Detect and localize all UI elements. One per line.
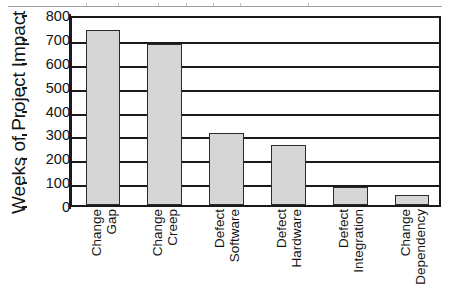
- y-tick-mark: [22, 134, 27, 136]
- x-category-label: DefectIntegration: [331, 209, 366, 299]
- x-category-label: ChangeCreep: [145, 209, 180, 299]
- x-axis-label-group: ChangeGapChangeCreepDefectSoftwareDefect…: [70, 209, 441, 299]
- y-tick-label: 800: [30, 9, 70, 24]
- bar-chart-figure: Weeks of Project Impact 0100200300400500…: [0, 0, 449, 299]
- y-tick-mark: [22, 87, 27, 89]
- y-tick-mark: [22, 206, 27, 208]
- y-tick-mark: [22, 39, 27, 41]
- x-category-label: ChangeGap: [84, 209, 119, 299]
- bar: [395, 195, 430, 205]
- gridline: [72, 137, 439, 139]
- x-category-label-line: Defect: [337, 209, 351, 248]
- bar: [209, 133, 244, 205]
- gridline: [72, 185, 439, 187]
- x-category-label-line: Change: [399, 209, 413, 256]
- y-tick-label: 0: [30, 200, 70, 215]
- y-tick-label: 300: [30, 128, 70, 143]
- x-category-label: DefectHardware: [269, 209, 304, 299]
- y-tick-mark: [22, 63, 27, 65]
- gridline: [72, 114, 439, 116]
- x-category-label-line: Creep: [166, 209, 180, 246]
- gridline: [72, 42, 439, 44]
- gridline: [72, 161, 439, 163]
- bar: [271, 145, 306, 205]
- y-tick-label: 500: [30, 80, 70, 95]
- plot-area: [70, 16, 441, 207]
- bar: [86, 30, 121, 205]
- y-tick-mark: [22, 158, 27, 160]
- x-category-label-line: Defect: [275, 209, 289, 248]
- x-category-label-line: Software: [228, 209, 242, 262]
- x-category-label-line: Change: [90, 209, 104, 256]
- x-category-label-line: Integration: [352, 209, 366, 273]
- bar: [333, 187, 368, 205]
- gridline: [72, 66, 439, 68]
- x-category-label-line: Defect: [213, 209, 227, 248]
- y-tick-label: 400: [30, 104, 70, 119]
- gridline: [72, 90, 439, 92]
- y-tick-label: 100: [30, 176, 70, 191]
- y-tick-mark: [22, 15, 27, 17]
- y-axis-tick-group: 0100200300400500600700800: [22, 16, 70, 207]
- x-category-label-line: Gap: [105, 209, 119, 235]
- x-category-label: DefectSoftware: [207, 209, 242, 299]
- x-category-label-line: Hardware: [290, 209, 304, 268]
- y-tick-label: 600: [30, 57, 70, 72]
- x-category-label-line: Dependency: [414, 209, 428, 285]
- y-tick-label: 700: [30, 33, 70, 48]
- bar: [147, 44, 182, 205]
- y-tick-label: 200: [30, 152, 70, 167]
- x-category-label: ChangeDependency: [393, 209, 428, 299]
- y-tick-mark: [22, 182, 27, 184]
- x-category-label-line: Change: [151, 209, 165, 256]
- y-tick-mark: [22, 111, 27, 113]
